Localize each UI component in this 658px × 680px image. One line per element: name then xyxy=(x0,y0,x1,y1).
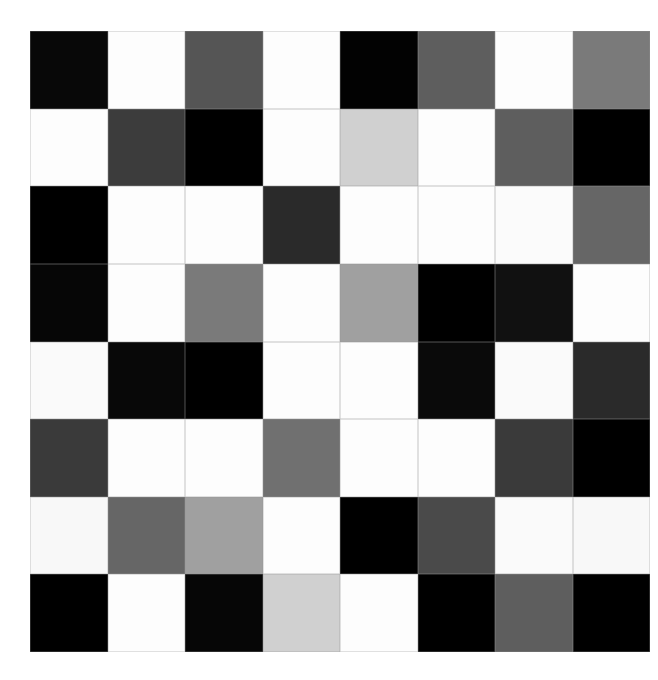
grid-cell-r3-c1 xyxy=(108,264,186,342)
grid-cell-r1-c0 xyxy=(30,109,108,187)
grid-cell-r3-c2 xyxy=(185,264,263,342)
grid-cell-r4-c1 xyxy=(108,342,186,420)
grid-cell-r2-c1 xyxy=(108,186,186,264)
grid-cell-r1-c3 xyxy=(263,109,341,187)
grid-cell-r0-c3 xyxy=(263,31,341,109)
grid-cell-r4-c0 xyxy=(30,342,108,420)
grid-cell-r1-c1 xyxy=(108,109,186,187)
grid-cell-r5-c6 xyxy=(495,419,573,497)
grid-cell-r7-c0 xyxy=(30,574,108,652)
grayscale-grid xyxy=(30,31,650,652)
grid-cell-r5-c0 xyxy=(30,419,108,497)
grid-cell-r3-c3 xyxy=(263,264,341,342)
grid-cell-r2-c2 xyxy=(185,186,263,264)
grid-cell-r0-c7 xyxy=(573,31,651,109)
grid-cell-r0-c1 xyxy=(108,31,186,109)
grid-cell-r4-c5 xyxy=(418,342,496,420)
grid-cell-r6-c2 xyxy=(185,497,263,575)
grid-cell-r0-c2 xyxy=(185,31,263,109)
grid-cell-r7-c1 xyxy=(108,574,186,652)
grid-cell-r1-c2 xyxy=(185,109,263,187)
grid-cell-r2-c5 xyxy=(418,186,496,264)
grid-cell-r5-c1 xyxy=(108,419,186,497)
grid-cell-r7-c5 xyxy=(418,574,496,652)
grid-cell-r5-c7 xyxy=(573,419,651,497)
grid-cell-r2-c6 xyxy=(495,186,573,264)
grid-cell-r2-c3 xyxy=(263,186,341,264)
grid-cell-r0-c4 xyxy=(340,31,418,109)
grid-cell-r1-c5 xyxy=(418,109,496,187)
grid-cell-r7-c6 xyxy=(495,574,573,652)
grid-cell-r6-c1 xyxy=(108,497,186,575)
grid-cell-r4-c7 xyxy=(573,342,651,420)
grid-cell-r4-c2 xyxy=(185,342,263,420)
grid-cell-r6-c0 xyxy=(30,497,108,575)
grid-cell-r3-c7 xyxy=(573,264,651,342)
grid-cell-r0-c5 xyxy=(418,31,496,109)
grid-cell-r7-c3 xyxy=(263,574,341,652)
grid-cell-r2-c0 xyxy=(30,186,108,264)
grid-cell-r7-c7 xyxy=(573,574,651,652)
grid-cell-r6-c3 xyxy=(263,497,341,575)
grid-cell-r5-c5 xyxy=(418,419,496,497)
grid-cell-r0-c0 xyxy=(30,31,108,109)
grid-cell-r3-c5 xyxy=(418,264,496,342)
grid-cell-r6-c7 xyxy=(573,497,651,575)
grid-cell-r4-c6 xyxy=(495,342,573,420)
grid-cell-r7-c4 xyxy=(340,574,418,652)
grid-cell-r5-c3 xyxy=(263,419,341,497)
grid-cell-r1-c6 xyxy=(495,109,573,187)
canvas xyxy=(0,0,658,680)
grid-cell-r1-c4 xyxy=(340,109,418,187)
grid-cell-r5-c4 xyxy=(340,419,418,497)
grid-cell-r6-c4 xyxy=(340,497,418,575)
grid-cell-r1-c7 xyxy=(573,109,651,187)
grid-cell-r2-c7 xyxy=(573,186,651,264)
grid-cell-r3-c4 xyxy=(340,264,418,342)
grid-cell-r4-c4 xyxy=(340,342,418,420)
grid-cell-r7-c2 xyxy=(185,574,263,652)
grid-cell-r4-c3 xyxy=(263,342,341,420)
grid-cell-r5-c2 xyxy=(185,419,263,497)
grid-cell-r6-c5 xyxy=(418,497,496,575)
grid-cell-r2-c4 xyxy=(340,186,418,264)
grid-cell-r0-c6 xyxy=(495,31,573,109)
grid-cell-r6-c6 xyxy=(495,497,573,575)
grid-cell-r3-c6 xyxy=(495,264,573,342)
grid-cell-r3-c0 xyxy=(30,264,108,342)
